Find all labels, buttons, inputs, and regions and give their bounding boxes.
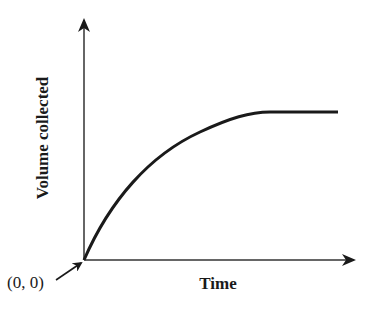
y-axis-label: Volume collected [33, 76, 52, 199]
chart: Volume collected Time (0, 0) [0, 0, 372, 321]
origin-arrow [56, 263, 81, 280]
x-axis-label: Time [199, 274, 237, 293]
origin-label: (0, 0) [7, 273, 44, 292]
volume-curve [84, 112, 338, 260]
